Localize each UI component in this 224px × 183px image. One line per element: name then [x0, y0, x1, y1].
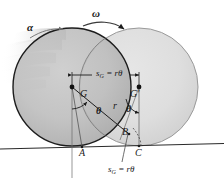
sg-bot-rest: = rθ [116, 164, 135, 174]
label-omega: ω [92, 8, 100, 19]
sg-top-rest: = rθ [104, 68, 123, 78]
label-radius-r: r [113, 101, 117, 111]
label-theta-right: θ [126, 104, 131, 114]
rolling-wheel-diagram [0, 0, 224, 183]
omega-arrow [83, 22, 124, 29]
center-dot-G [70, 85, 75, 90]
label-point-A: A [79, 148, 85, 158]
label-arc-length-bottom: sG = rθ [108, 165, 134, 175]
label-center-G: G [80, 89, 87, 99]
label-alpha: α [27, 22, 33, 33]
label-point-C: C [135, 148, 142, 158]
ground-line [0, 144, 224, 150]
label-point-B: B [122, 127, 128, 137]
label-theta-left: θ [96, 106, 101, 116]
label-arc-length-top: sG = rθ [96, 69, 122, 79]
label-center-Gprime: G′ [130, 89, 139, 99]
